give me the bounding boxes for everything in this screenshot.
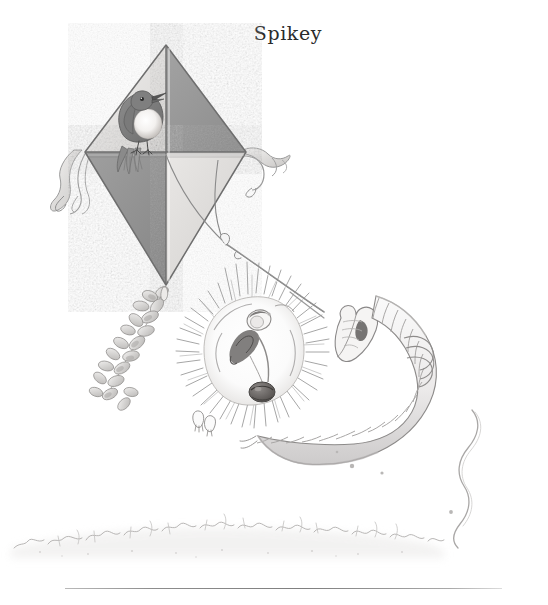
scarf-fringe — [240, 436, 257, 448]
mitten — [335, 306, 377, 362]
illustration-svg — [0, 0, 548, 605]
leaf-garland — [88, 284, 170, 412]
divider-rule — [65, 588, 502, 589]
illustration-canvas — [0, 0, 548, 605]
hedgehog — [176, 262, 329, 436]
kite-ribbon-right — [243, 148, 290, 197]
grass — [10, 514, 445, 558]
kite — [51, 45, 291, 285]
illustration-page: Spikey — [0, 0, 548, 605]
kite-sail — [85, 45, 246, 285]
trailing-string — [454, 410, 481, 548]
hedgehog-paws — [193, 411, 216, 432]
hedgehog-nose — [249, 382, 275, 402]
kite-ribbon-left — [51, 150, 90, 214]
